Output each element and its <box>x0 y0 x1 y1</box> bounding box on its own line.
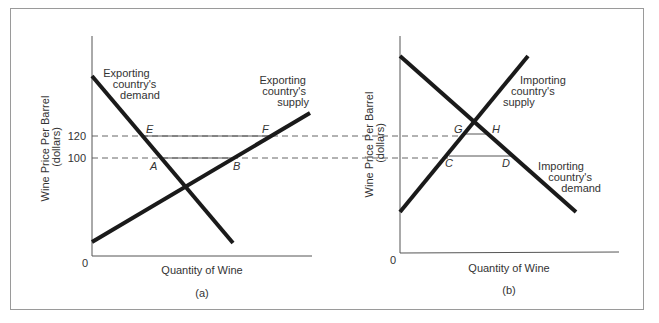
panel-b-caption: (b) <box>502 284 515 296</box>
importing-supply-curve <box>400 56 528 212</box>
panel-a-caption: (a) <box>195 287 208 299</box>
point-A: A <box>149 160 157 172</box>
panel-a-x-axis-title: Quantity of Wine <box>161 264 242 276</box>
trade-diagram: 120 100 0 Exporting country's demand Exp… <box>0 0 659 323</box>
tick-100: 100 <box>68 152 86 164</box>
exporting-supply-label: Exporting country's supply <box>259 74 309 108</box>
point-G: G <box>454 123 463 135</box>
point-F: F <box>262 123 270 135</box>
importing-supply-label: Importing country's supply <box>503 74 569 108</box>
exporting-supply-curve <box>92 113 310 242</box>
panel-b-x-axis-title: Quantity of Wine <box>468 262 549 274</box>
panel-a-y-axis-title: Wine Price Per Barrel (dollars) <box>39 93 62 202</box>
point-D: D <box>502 157 510 169</box>
origin-label: 0 <box>82 257 88 269</box>
point-H: H <box>492 123 500 135</box>
panel-b-y-axis-title: Wine Price Per Barrel (dollars) <box>363 89 386 198</box>
panel-b: Importing country's supply Importing cou… <box>363 36 619 296</box>
exporting-demand-label: Exporting country's demand <box>103 67 160 101</box>
tick-120: 120 <box>68 130 86 142</box>
panel-b-x-axis <box>400 252 619 253</box>
point-B: B <box>233 160 240 172</box>
panel-a: 120 100 0 Exporting country's demand Exp… <box>39 36 462 299</box>
point-E: E <box>146 123 154 135</box>
point-C: C <box>445 157 453 169</box>
panel-b-origin-label: 0 <box>390 254 396 266</box>
exporting-demand-curve <box>92 76 233 243</box>
